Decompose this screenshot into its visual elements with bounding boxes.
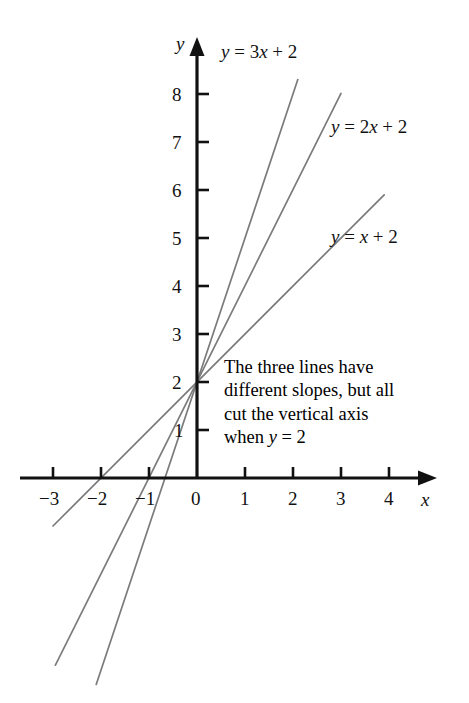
equation-label-2x: y = 2x + 2: [331, 117, 407, 136]
equation-3x-post: + 2: [268, 41, 298, 62]
x-tick-label-neg3: −3: [39, 489, 59, 508]
slopes-note-value: = 2: [277, 427, 306, 447]
equation-3x-var-x: x: [259, 41, 267, 62]
equation-label-x: y = x + 2: [331, 227, 398, 246]
y-tick-label-4: 4: [172, 277, 182, 296]
slopes-note-line-2: different slopes, but all: [224, 379, 439, 402]
graph-figure: 8 7 6 5 4 3 2 1 −3 −2 −1 0 1 2 3 4 y x y…: [0, 0, 469, 703]
y-tick-label-1: 1: [174, 421, 184, 440]
equation-2x-var-x: x: [369, 116, 377, 137]
y-tick-label-2: 2: [172, 373, 182, 392]
x-axis-label: x: [421, 490, 429, 509]
x-axis: [20, 467, 437, 486]
slopes-note: The three lines have different slopes, b…: [224, 356, 439, 450]
y-tick-label-8: 8: [172, 85, 182, 104]
y-axis-arrowhead: [190, 37, 205, 56]
slopes-note-line-4: when y = 2: [224, 426, 439, 449]
x-tick-label-2: 2: [288, 489, 298, 508]
equation-x-mid: =: [339, 226, 359, 247]
plot-canvas: [0, 0, 469, 703]
x-tick-label-neg2: −2: [87, 489, 107, 508]
y-axis: [190, 37, 210, 478]
x-tick-label-4: 4: [384, 489, 394, 508]
equation-3x-mid: = 3: [229, 41, 259, 62]
x-tick-label-1: 1: [240, 489, 250, 508]
slopes-note-line-3: cut the vertical axis: [224, 403, 439, 426]
equation-2x-mid: = 2: [339, 116, 369, 137]
y-tick-label-5: 5: [172, 229, 182, 248]
equation-2x-post: + 2: [378, 116, 408, 137]
x-axis-arrowhead: [418, 471, 437, 486]
equation-label-3x: y = 3x + 2: [221, 42, 297, 61]
x-tick-label-0: 0: [191, 489, 201, 508]
y-tick-label-7: 7: [172, 133, 182, 152]
slopes-note-var-y: y: [269, 427, 277, 447]
y-tick-label-3: 3: [172, 325, 182, 344]
y-tick-label-6: 6: [172, 181, 182, 200]
y-axis-label: y: [176, 34, 184, 53]
equation-x-post: + 2: [368, 226, 398, 247]
slopes-note-line-1: The three lines have: [224, 356, 439, 379]
slopes-note-when: when: [224, 427, 269, 447]
x-tick-label-neg1: −1: [135, 489, 155, 508]
equation-x-var-x: x: [360, 226, 368, 247]
x-tick-label-3: 3: [336, 489, 346, 508]
